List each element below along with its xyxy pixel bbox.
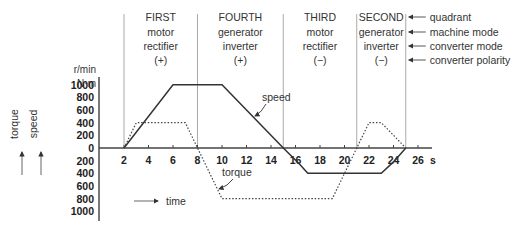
row-legend-converter-polarity: converter polarity: [409, 54, 511, 66]
svg-text:(−): (−): [375, 54, 388, 66]
x-tick: 20: [339, 154, 351, 166]
svg-text:converter mode: converter mode: [430, 40, 503, 52]
y-tick: 200: [76, 155, 94, 167]
row-legend: quadrantmachine modeconverter modeconver…: [409, 11, 511, 66]
y-tick: 200: [76, 129, 94, 141]
speed-axis-label: speed: [27, 110, 41, 175]
svg-text:FOURTH: FOURTH: [219, 11, 263, 23]
svg-text:quadrant: quadrant: [430, 11, 472, 23]
svg-text:FIRST: FIRST: [146, 11, 177, 23]
y-tick: 800: [76, 193, 94, 205]
speed-pointer-icon: [255, 104, 266, 116]
svg-text:(+): (+): [234, 54, 247, 66]
svg-text:torque: torque: [8, 109, 20, 139]
y-tick: 800: [76, 91, 94, 103]
row-legend-machine-mode: machine mode: [409, 26, 499, 38]
y-tick-labels: 100080060040020002004006008001000: [71, 79, 95, 217]
x-tick: 18: [314, 154, 326, 166]
svg-text:rectifier: rectifier: [144, 40, 179, 52]
row-legend-quadrant: quadrant: [409, 11, 472, 23]
x-tick: 22: [363, 154, 375, 166]
x-tick: 8: [195, 154, 201, 166]
svg-text:converter polarity: converter polarity: [430, 54, 511, 66]
y-tick: 400: [76, 117, 94, 129]
svg-text:(+): (+): [154, 54, 167, 66]
x-tick: 26: [412, 154, 424, 166]
svg-text:rectifier: rectifier: [303, 40, 338, 52]
speed-annotation: speed: [262, 91, 291, 103]
speed-torque-diagram: FIRSTmotorrectifier(+)FOURTHgeneratorinv…: [0, 0, 525, 236]
quadrant-fourth: FOURTHgeneratorinverter(+): [218, 11, 263, 66]
y-tick: 600: [76, 104, 94, 116]
x-tick: 14: [265, 154, 277, 166]
x-tick: 2: [121, 154, 127, 166]
torque-axis-label: torque: [8, 109, 22, 175]
svg-text:inverter: inverter: [223, 40, 259, 52]
svg-text:THIRD: THIRD: [304, 11, 336, 23]
svg-text:SECOND: SECOND: [359, 11, 404, 23]
svg-text:inverter: inverter: [364, 40, 400, 52]
x-tick: 10: [216, 154, 228, 166]
x-unit: s: [430, 154, 436, 166]
svg-text:(−): (−): [313, 54, 326, 66]
quadrant-headers: FIRSTmotorrectifier(+)FOURTHgeneratorinv…: [144, 11, 405, 66]
y-tick: 1000: [71, 205, 95, 217]
quadrant-first: FIRSTmotorrectifier(+): [144, 11, 179, 66]
svg-text:motor: motor: [147, 26, 174, 38]
row-legend-converter-mode: converter mode: [409, 40, 503, 52]
quadrant-third: THIRDmotorrectifier(−): [303, 11, 338, 66]
y-unit-speed: r/min: [74, 64, 96, 75]
torque-pointer-icon: [219, 179, 233, 189]
svg-text:speed: speed: [27, 110, 39, 139]
time-label: time: [166, 195, 186, 207]
x-tick: 12: [241, 154, 253, 166]
y-tick: 1000: [71, 79, 95, 91]
quadrant-second: SECONDgeneratorinverter(−): [359, 11, 404, 66]
y-tick: 400: [76, 167, 94, 179]
x-tick: 24: [388, 154, 400, 166]
torque-annotation: torque: [222, 166, 252, 178]
y-tick: 600: [76, 180, 94, 192]
svg-text:motor: motor: [307, 26, 334, 38]
svg-text:machine mode: machine mode: [430, 26, 499, 38]
x-tick: 6: [170, 154, 176, 166]
svg-text:generator: generator: [359, 26, 404, 38]
x-tick: 4: [146, 154, 152, 166]
svg-text:generator: generator: [218, 26, 263, 38]
y-tick: 0: [88, 142, 94, 154]
